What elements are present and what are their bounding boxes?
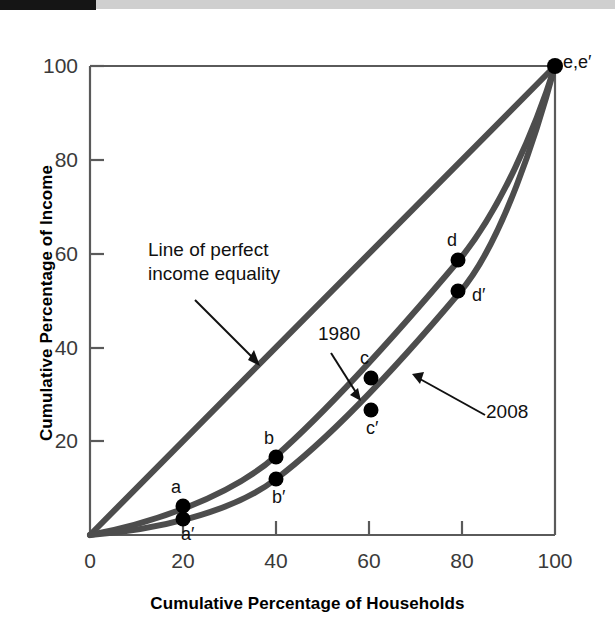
x-tick-label-20: 20	[153, 549, 213, 573]
x-tick-label-40: 40	[246, 549, 306, 573]
equality-annotation-arrow	[195, 300, 260, 366]
y-axis-title: Cumulative Percentage of Income	[37, 68, 57, 538]
data-point-d	[451, 253, 466, 268]
chart-canvas	[0, 0, 615, 633]
y-axis-ticks	[90, 66, 104, 441]
point-label-d-prime: d′	[472, 285, 485, 306]
point-label-a: a	[171, 477, 181, 498]
point-label-e-shared: e,e′	[563, 52, 591, 73]
data-point-c	[364, 371, 379, 386]
data-point-e-shared	[547, 58, 563, 74]
point-label-c-prime: c′	[366, 418, 378, 439]
equality-annotation-line1: Line of perfect	[148, 238, 268, 262]
data-point-d-prime	[451, 284, 466, 299]
data-points-1980	[176, 253, 466, 514]
x-tick-label-0: 0	[60, 549, 120, 573]
data-point-b	[269, 450, 284, 465]
point-label-b: b	[264, 428, 274, 449]
x-axis-title: Cumulative Percentage of Households	[0, 594, 615, 614]
point-label-d: d	[447, 230, 457, 251]
equality-annotation-line2: income equality	[148, 262, 280, 286]
x-tick-label-80: 80	[432, 549, 492, 573]
year-2008-annotation-arrow	[412, 372, 485, 415]
data-point-c-prime	[364, 403, 379, 418]
point-label-a-prime: a′	[181, 524, 194, 545]
point-label-b-prime: b′	[272, 487, 285, 508]
data-point-a	[176, 499, 191, 514]
x-tick-label-60: 60	[339, 549, 399, 573]
year-2008-label: 2008	[486, 400, 528, 424]
lorenz-curve-figure: 100 80 60 40 20 0 20 40 60 80 100 Cumula…	[0, 0, 615, 633]
x-axis-ticks	[183, 521, 462, 535]
x-tick-label-100: 100	[525, 549, 585, 573]
data-point-b-prime	[269, 472, 284, 487]
year-1980-label: 1980	[318, 322, 360, 346]
point-label-c: c	[360, 348, 369, 369]
